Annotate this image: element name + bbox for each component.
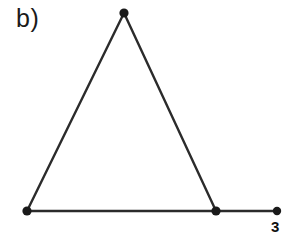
vertex-apex (119, 8, 128, 17)
graph-diagram (0, 0, 295, 235)
vertex-pendant (273, 207, 281, 215)
vertex-base-right (211, 206, 220, 215)
vertex-label-pendant: 3 (271, 219, 279, 234)
panel-label: b) (16, 6, 39, 31)
vertex-base-left (22, 206, 31, 215)
figure-container: b) 3 (0, 0, 295, 235)
figure-background (0, 0, 295, 235)
